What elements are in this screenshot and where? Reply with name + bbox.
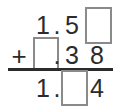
addend2-decimal-point: . <box>51 43 63 68</box>
sum-ones-digit: 1 <box>34 76 52 101</box>
plus-operator: + <box>10 43 28 69</box>
addend1-tenths-digit: 5 <box>63 13 81 38</box>
addend2-tenths-digit: 3 <box>63 43 81 68</box>
addend1-decimal-point: . <box>51 13 63 38</box>
addition-problem: 1 . 5 + . 3 8 1 . 4 <box>0 0 118 107</box>
addend1-hundredths-blank[interactable] <box>85 7 112 44</box>
addend1-ones-digit: 1 <box>34 13 52 38</box>
sum-tenths-blank[interactable] <box>61 70 88 106</box>
addend2-hundredths-digit: 8 <box>88 43 106 68</box>
sum-hundredths-digit: 4 <box>88 76 106 101</box>
